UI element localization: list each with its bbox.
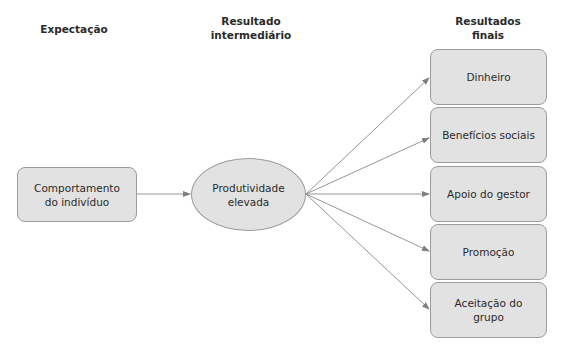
arrow-to-dinheiro [306, 78, 429, 194]
node-outcome-text: Aceitação do grupo [455, 296, 523, 324]
node-outcome-promotion: Promoção [430, 224, 547, 280]
node-individual-behavior-text: Comportamento do indivíduo [34, 181, 120, 209]
node-outcome-text: Dinheiro [466, 70, 510, 84]
arrow-to-aceitacao [306, 194, 429, 309]
node-outcome-manager-support: Apoio do gestor [430, 166, 547, 222]
node-individual-behavior: Comportamento do indivíduo [17, 167, 137, 222]
node-outcome-text: Benefícios sociais [442, 128, 535, 142]
node-outcome-money: Dinheiro [430, 49, 547, 105]
node-high-productivity: Produtividade elevada [191, 158, 306, 231]
arrow-to-beneficios [306, 138, 429, 194]
node-high-productivity-text: Produtividade elevada [212, 181, 284, 209]
node-outcome-group-acceptance: Aceitação do grupo [430, 282, 547, 338]
node-outcome-text: Apoio do gestor [447, 187, 530, 201]
node-outcome-text: Promoção [463, 245, 515, 259]
node-outcome-social-benefits: Benefícios sociais [430, 107, 547, 163]
arrow-to-promocao [306, 194, 429, 251]
